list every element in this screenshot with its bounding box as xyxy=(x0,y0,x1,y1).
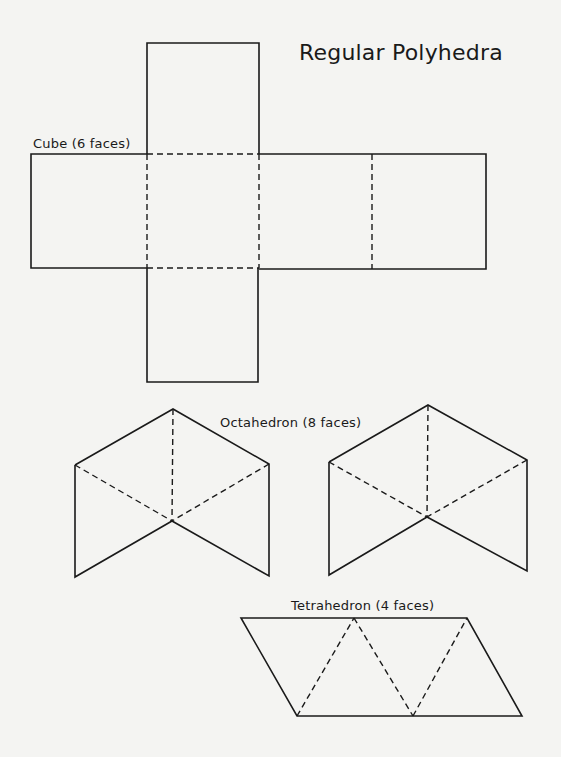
tetrahedron-fold-line xyxy=(413,618,467,716)
octahedron-fold-line xyxy=(329,462,427,517)
polyhedra-nets-drawing xyxy=(0,0,561,757)
octahedron-fold-line xyxy=(427,460,527,517)
tetrahedron-label: Tetrahedron (4 faces) xyxy=(291,598,434,613)
octahedron-fold-line xyxy=(427,405,428,517)
page-title: Regular Polyhedra xyxy=(299,40,503,65)
octahedron-fold-line xyxy=(172,409,173,521)
cube-net xyxy=(31,43,486,382)
octahedron-fold-line xyxy=(172,464,269,521)
octahedron-fold-line xyxy=(75,465,172,521)
cube-bottom-face-outline xyxy=(147,268,258,382)
cube-right-faces-outline xyxy=(259,154,486,269)
tetrahedron-fold-line xyxy=(354,618,413,716)
tetrahedron-fold-line xyxy=(297,618,354,716)
tetrahedron-net xyxy=(241,618,522,716)
cube-left-face-outline xyxy=(31,154,147,268)
tetrahedron-outline xyxy=(241,618,522,716)
octahedron-label: Octahedron (8 faces) xyxy=(220,415,361,430)
cube-label: Cube (6 faces) xyxy=(33,136,131,151)
cube-top-face-outline xyxy=(147,43,259,154)
octahedron-net-left xyxy=(75,409,269,577)
octahedron-net-right xyxy=(329,405,527,575)
